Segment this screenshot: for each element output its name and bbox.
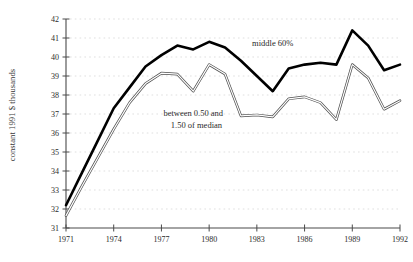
y-tick-label-39: 39 bbox=[51, 72, 59, 81]
x-tick-label-1974: 1974 bbox=[106, 235, 122, 244]
series-line-0 bbox=[66, 30, 400, 205]
series-line-1-outer bbox=[66, 65, 400, 216]
y-tick-label-37: 37 bbox=[51, 110, 59, 119]
y-tick-label-40: 40 bbox=[51, 53, 59, 62]
y-tick-label-36: 36 bbox=[51, 129, 59, 138]
line-chart: 313233343536373839404142 197119741977198… bbox=[0, 0, 413, 262]
chart-annotation-0: middle 60% bbox=[252, 38, 293, 48]
ticks-group bbox=[63, 19, 401, 232]
x-tick-label-1977: 1977 bbox=[153, 235, 169, 244]
x-tick-label-1980: 1980 bbox=[201, 235, 217, 244]
y-tick-label-41: 41 bbox=[51, 34, 59, 43]
y-tick-label-32: 32 bbox=[51, 205, 59, 214]
x-tick-label-1986: 1986 bbox=[297, 235, 313, 244]
y-tick-labels: 313233343536373839404142 bbox=[51, 15, 59, 233]
chart-annotation-1: between 0.50 and bbox=[163, 108, 223, 118]
y-tick-label-38: 38 bbox=[51, 91, 59, 100]
y-tick-label-42: 42 bbox=[51, 15, 59, 24]
y-tick-label-35: 35 bbox=[51, 148, 59, 157]
chart-figure: constant 1991 $ thousands 31323334353637… bbox=[0, 0, 413, 262]
gridlines-group bbox=[70, 19, 400, 209]
x-tick-label-1989: 1989 bbox=[344, 235, 360, 244]
y-tick-label-33: 33 bbox=[51, 186, 59, 195]
y-tick-label-34: 34 bbox=[51, 167, 59, 176]
y-tick-label-31: 31 bbox=[51, 224, 59, 233]
chart-annotation-2: 1.50 of median bbox=[171, 120, 223, 130]
series-line-1-inner bbox=[66, 65, 400, 216]
x-tick-label-1971: 1971 bbox=[58, 235, 74, 244]
series-group bbox=[66, 30, 400, 215]
x-tick-label-1992: 1992 bbox=[392, 235, 408, 244]
x-tick-labels: 19711974197719801983198619891992 bbox=[58, 235, 408, 244]
x-tick-label-1983: 1983 bbox=[249, 235, 265, 244]
